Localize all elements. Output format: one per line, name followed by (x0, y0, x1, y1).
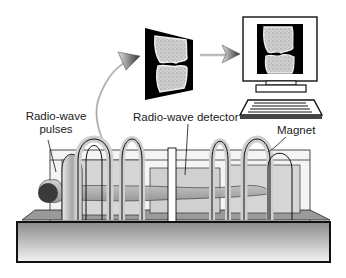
label-line: Radio-wave (18, 110, 94, 123)
label-radio-wave-detector: Radio-wave detector (133, 111, 238, 124)
label-radio-wave-pulses: Radio-wave pulses (18, 110, 94, 136)
label-line: pulses (18, 123, 94, 136)
mri-diagram: Radio-wave pulses Radio-wave detector Ma… (0, 0, 346, 278)
computer-icon (240, 17, 322, 119)
mri-scanner (22, 124, 330, 222)
label-magnet: Magnet (277, 124, 315, 137)
straight-arrow-icon (200, 45, 240, 63)
mri-image (145, 28, 193, 100)
scanner-platform (17, 222, 330, 262)
